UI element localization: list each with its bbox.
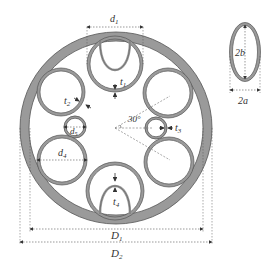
label-d4: d4 bbox=[58, 147, 67, 160]
top-tube bbox=[87, 36, 143, 92]
label-2a: 2a bbox=[238, 95, 248, 106]
upper-left-tube bbox=[37, 68, 85, 116]
top-inner-arch bbox=[100, 41, 130, 70]
label-t3: t3 bbox=[175, 122, 182, 135]
label-D2: D2 bbox=[110, 247, 123, 261]
label-d5: d5 bbox=[70, 126, 78, 137]
lower-right-tube bbox=[144, 137, 194, 187]
label-t2: t2 bbox=[64, 95, 71, 108]
label-angle: 30° bbox=[127, 114, 141, 124]
label-t4: t4 bbox=[113, 196, 120, 209]
label-D1: D1 bbox=[110, 229, 122, 243]
label-t1: t1 bbox=[120, 76, 126, 89]
label-2b: 2b bbox=[235, 47, 245, 58]
pipe-bundle-diagram: d1 t1 t2 d5 d4 30° t3 t4 D1 D2 2b 2a bbox=[0, 0, 275, 273]
upper-right-tube bbox=[143, 68, 193, 118]
label-d1: d1 bbox=[110, 13, 119, 26]
diagram-canvas: d1 t1 t2 d5 d4 30° t3 t4 D1 D2 2b 2a bbox=[0, 0, 275, 273]
